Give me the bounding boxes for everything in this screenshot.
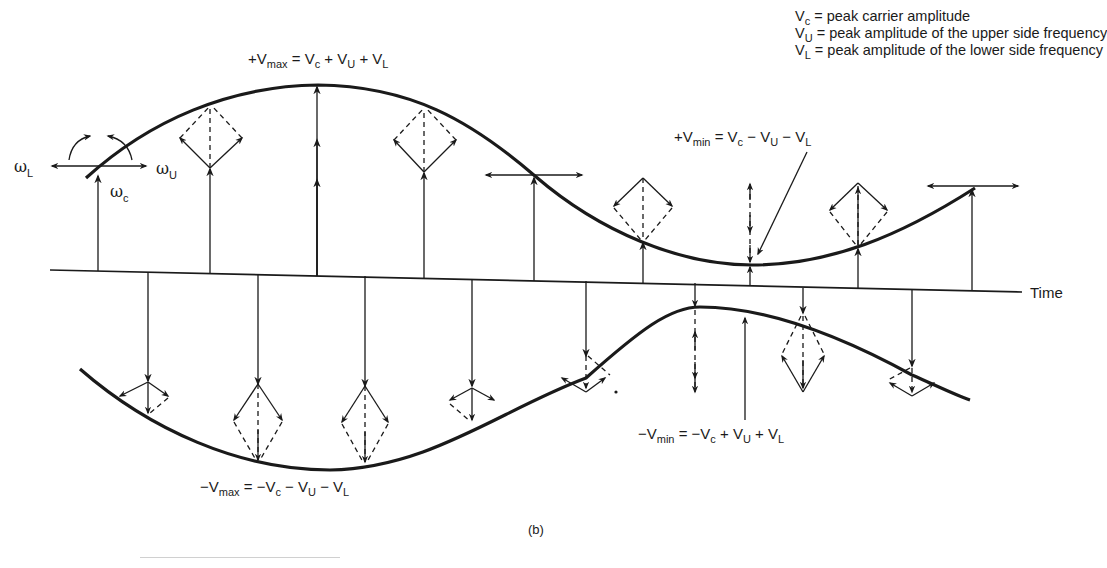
plus-vmin-label: +Vmin = Vc − VU − VL xyxy=(674,128,811,146)
legend-item-carrier: Vc = peak carrier amplitude xyxy=(795,8,1107,25)
time-axis-label: Time xyxy=(1030,284,1063,302)
omega-l-label: ωL xyxy=(14,158,33,176)
omega-u-label: ωU xyxy=(156,160,177,178)
caption-rule xyxy=(140,557,340,558)
legend-item-lower-side: VL = peak amplitude of the lower side fr… xyxy=(795,42,1107,59)
plus-vmax-label: +Vmax = Vc + VU + VL xyxy=(248,50,388,68)
time-axis xyxy=(50,270,1022,292)
legend-item-upper-side: VU = peak amplitude of the upper side fr… xyxy=(795,25,1107,42)
minus-vmax-label: −Vmax = −Vc − VU − VL xyxy=(200,478,349,496)
legend: Vc = peak carrier amplitude VU = peak am… xyxy=(795,8,1107,59)
lower-envelope xyxy=(80,307,970,470)
minus-vmin-label: −Vmin = −Vc + VU + VL xyxy=(638,425,784,443)
figure-caption: (b) xyxy=(528,521,544,539)
lower-phasors xyxy=(120,272,934,462)
upper-phasors xyxy=(52,87,1018,290)
omega-c-label: ωc xyxy=(110,183,129,201)
